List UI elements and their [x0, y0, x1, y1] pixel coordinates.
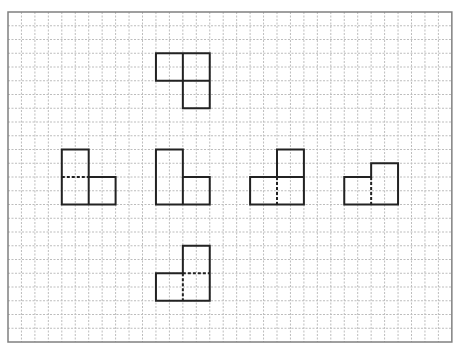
grid-diagram: [0, 0, 461, 353]
top-shape: [156, 53, 210, 108]
shape-c: [250, 150, 304, 205]
shape-b: [156, 150, 210, 205]
shape-d: [344, 163, 398, 204]
shape-a: [62, 150, 116, 205]
